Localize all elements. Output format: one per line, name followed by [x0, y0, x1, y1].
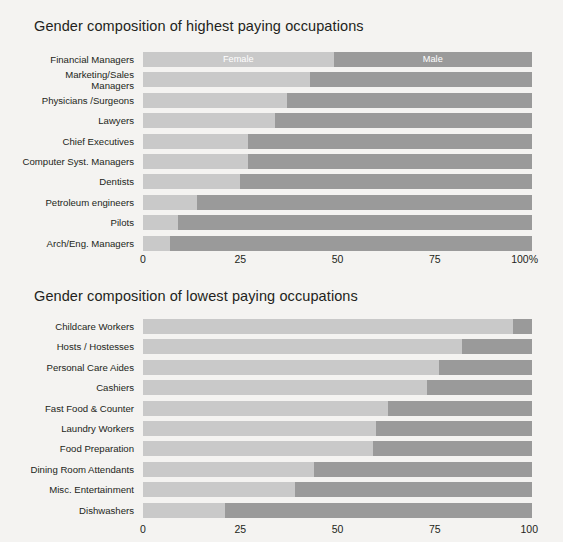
bar-row-label: Arch/Eng. Managers [0, 239, 134, 249]
bar-row-label: Pilots [0, 218, 134, 228]
bar-segment-female [143, 113, 532, 128]
x-axis-tick: 0 [140, 253, 146, 265]
bar-segment-male [248, 134, 532, 149]
bar-segment-male [197, 195, 532, 210]
bar-row-label: Food Preparation [0, 444, 134, 454]
bar-segment-female [143, 401, 532, 416]
bar-segment-female [143, 195, 532, 210]
bar-row-label: Physicians /Surgeons [0, 96, 134, 106]
chart-title-lowest: Gender composition of lowest paying occu… [34, 288, 358, 304]
bar-row: Dishwashers [0, 502, 563, 522]
bar-row-label: Chief Executives [0, 137, 134, 147]
bar-row: Food Preparation [0, 440, 563, 460]
x-axis-tick: 100 [520, 523, 538, 535]
x-axis-lowest: 0255075100 [0, 523, 563, 541]
chart-lowest-paying-occupations: Gender composition of lowest paying occu… [0, 278, 563, 542]
plot-area-lowest: Childcare WorkersHosts / HostessesPerson… [0, 318, 563, 522]
x-axis-tick: 25 [234, 253, 246, 265]
bar-row-label: Personal Care Aides [0, 363, 134, 373]
x-axis-tick: 0 [140, 523, 146, 535]
bar-segment-female [143, 339, 532, 354]
bar-row: Computer Syst. Managers [0, 153, 563, 173]
bar-row-label: Laundry Workers [0, 424, 134, 434]
bar-segment-female [143, 319, 532, 334]
bar-segment-male [388, 401, 532, 416]
bar-segment-female [143, 236, 532, 251]
bar-segment-female [143, 380, 532, 395]
bar-segment-male [275, 113, 532, 128]
x-axis-tick: 75 [429, 253, 441, 265]
x-axis-highest: 0255075100% [0, 253, 563, 271]
bar-segment-female [143, 154, 532, 169]
bar-row-label: Dentists [0, 177, 134, 187]
bar-row-label: Petroleum engineers [0, 198, 134, 208]
bar-row: Dentists [0, 173, 563, 193]
bar-segment-male [295, 482, 532, 497]
x-axis-tick: 50 [332, 253, 344, 265]
bar-segment-female [143, 215, 532, 230]
bar-row: Fast Food & Counter [0, 400, 563, 420]
x-axis-tick: 50 [332, 523, 344, 535]
bar-row: Laundry Workers [0, 420, 563, 440]
chart-title-highest: Gender composition of highest paying occ… [34, 18, 364, 34]
bar-row-label: Dishwashers [0, 506, 134, 516]
bar-row-label: Hosts / Hostesses [0, 342, 134, 352]
x-axis-tick: 100% [511, 253, 538, 265]
plot-area-highest: Financial ManagersFemaleMaleMarketing/Sa… [0, 51, 563, 255]
bar-row-label: Dining Room Attendants [0, 465, 134, 475]
bar-row: Misc. Entertainment [0, 481, 563, 501]
bar-row-label: Computer Syst. Managers [0, 157, 134, 167]
bar-row-label: Financial Managers [0, 55, 134, 65]
bar-row: Lawyers [0, 112, 563, 132]
bar-row: Hosts / Hostesses [0, 338, 563, 358]
bar-segment-female [143, 174, 532, 189]
bar-segment-male [373, 441, 532, 456]
bar-row-label: Fast Food & Counter [0, 404, 134, 414]
bar-row: Financial ManagersFemaleMale [0, 51, 563, 71]
bar-segment-male [225, 503, 532, 518]
chart-highest-paying-occupations: Gender composition of highest paying occ… [0, 0, 563, 278]
bar-segment-male [376, 421, 532, 436]
bar-segment-female [143, 421, 532, 436]
bar-row-label: Cashiers [0, 383, 134, 393]
bar-row: Dining Room Attendants [0, 461, 563, 481]
bar-row: Personal Care Aides [0, 359, 563, 379]
bar-row: Pilots [0, 214, 563, 234]
bar-segment-male [287, 93, 532, 108]
bar-segment-male [310, 72, 532, 87]
bar-segment-female [143, 72, 532, 87]
bar-segment-male [248, 154, 532, 169]
bar-segment-male [427, 380, 532, 395]
bar-segment-male [314, 462, 532, 477]
bar-segment-male [513, 319, 532, 334]
bar-row-label: Marketing/Sales Managers [0, 70, 134, 91]
bar-row-label: Lawyers [0, 116, 134, 126]
bar-segment-female [143, 134, 532, 149]
bar-row-label: Childcare Workers [0, 322, 134, 332]
bar-row: Childcare Workers [0, 318, 563, 338]
bar-segment-female [143, 503, 532, 518]
bar-row: Marketing/Sales Managers [0, 71, 563, 91]
bar-segment-male [178, 215, 532, 230]
bar-row: Chief Executives [0, 133, 563, 153]
bar-row: Arch/Eng. Managers [0, 235, 563, 255]
bar-row: Physicians /Surgeons [0, 92, 563, 112]
bar-row: Petroleum engineers [0, 194, 563, 214]
bar-segment-male [462, 339, 532, 354]
bar-segment-male [439, 360, 532, 375]
x-axis-tick: 25 [234, 523, 246, 535]
bar-row: Cashiers [0, 379, 563, 399]
bar-segment-male [240, 174, 532, 189]
bar-row-label: Misc. Entertainment [0, 485, 134, 495]
bar-segment-female [143, 441, 532, 456]
bar-segment-male [170, 236, 532, 251]
legend-label-female: Female [143, 52, 334, 67]
legend-label-male: Male [334, 52, 532, 67]
bar-segment-female [143, 462, 532, 477]
bar-segment-female [143, 360, 532, 375]
bar-segment-female [143, 482, 532, 497]
bar-segment-female [143, 93, 532, 108]
x-axis-tick: 75 [429, 523, 441, 535]
